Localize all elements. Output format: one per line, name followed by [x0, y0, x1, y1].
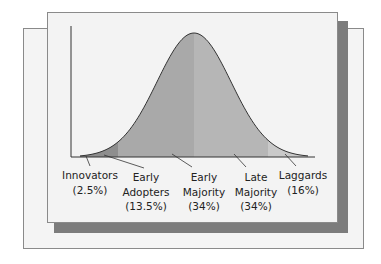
band-laggards [268, 20, 308, 160]
band-early-majority [118, 20, 194, 160]
adopter-bands [80, 20, 308, 160]
label-late-majority: LateMajority(34%) [235, 170, 277, 214]
label-innovators: Innovators(2.5%) [62, 168, 118, 197]
label-early-majority: EarlyMajority(34%) [183, 170, 225, 214]
band-late-majority [194, 20, 268, 160]
bell-curve-chart [0, 0, 381, 264]
label-laggards: Laggards(16%) [279, 168, 327, 197]
label-early-adopters: EarlyAdopters(13.5%) [122, 170, 169, 214]
band-innovators [80, 20, 118, 160]
